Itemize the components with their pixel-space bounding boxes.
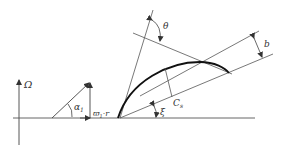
cs-perpendicular (165, 68, 172, 97)
tangential-velocity-label: ϖ1·r (93, 109, 110, 119)
omega-label: Ω (23, 79, 32, 90)
alpha-arc (68, 104, 72, 117)
blade-diagram: Ω α1 ϖ1·r Cs θ b ξ (0, 0, 283, 151)
xi-label: ξ (160, 107, 166, 117)
b-dimension-arrow (254, 38, 262, 57)
theta-label: θ (163, 21, 169, 31)
alpha-label: α1 (74, 102, 84, 113)
b-label: b (264, 39, 270, 49)
cs-label: Cs (173, 98, 183, 109)
theta-arc (152, 20, 160, 41)
xi-arc (154, 106, 156, 117)
chord-line-lower (120, 54, 273, 118)
chord-line-upper (140, 31, 259, 96)
